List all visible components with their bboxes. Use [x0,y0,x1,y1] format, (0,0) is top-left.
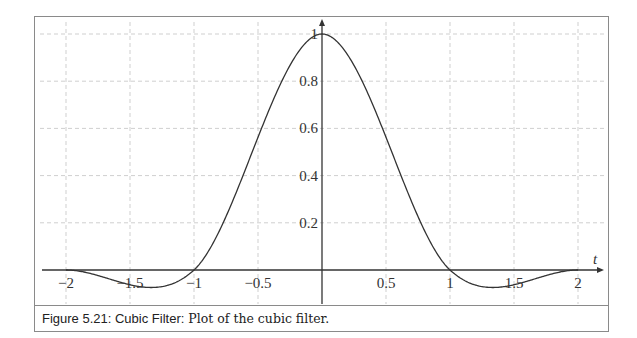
x-axis-label: t [593,251,598,267]
y-tick-label: 0.8 [299,73,318,89]
x-tick-label: 1 [446,275,454,291]
caption-box: Figure 5.21: Cubic Filter: Plot of the c… [34,305,609,332]
y-tick-label: 0.4 [299,168,318,184]
caption-label: Figure 5.21: Cubic Filter [42,311,181,326]
figure-caption: Figure 5.21: Cubic Filter: Plot of the c… [42,311,329,327]
caption-text: Plot of the cubic filter. [184,311,329,326]
y-axis-arrow-icon [319,19,325,26]
x-tick-label: 0.5 [377,275,396,291]
cubic-filter-plot: −2−1.5−1−0.50.511.520.20.40.60.81 t [0,0,637,338]
x-tick-label: −1.5 [116,275,143,291]
x-tick-label: 2 [574,275,582,291]
x-tick-label: −0.5 [244,275,271,291]
y-tick-label: 0.2 [299,215,318,231]
x-axis-arrow-icon [597,267,604,273]
tick-labels: −2−1.5−1−0.50.511.520.20.40.60.81 [58,26,582,291]
y-tick-label: 1 [311,26,319,42]
x-tick-label: −1 [186,275,202,291]
x-tick-label: −2 [58,275,74,291]
y-tick-label: 0.6 [299,120,318,136]
axes [42,19,604,304]
